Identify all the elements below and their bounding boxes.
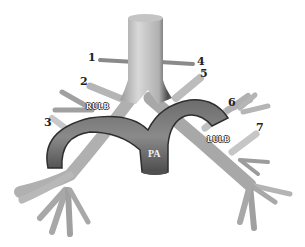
label-rulb: RULB	[86, 103, 109, 111]
label-5: 5	[200, 68, 208, 79]
airway-artery-diagram: 1 2 3 4 5 6 7 RULB LULB PA	[0, 0, 305, 247]
label-pa: PA	[148, 149, 161, 159]
label-2: 2	[80, 76, 88, 87]
label-lulb: LULB	[207, 136, 230, 144]
label-1: 1	[88, 52, 96, 63]
label-4: 4	[197, 56, 205, 67]
label-7: 7	[256, 122, 264, 133]
label-6: 6	[228, 97, 236, 108]
label-3: 3	[44, 117, 52, 128]
